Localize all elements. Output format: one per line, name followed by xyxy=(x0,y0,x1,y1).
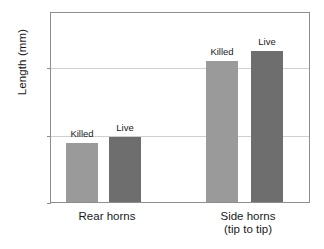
y-tick-mark-10 xyxy=(47,136,51,137)
y-tick-mark-20 xyxy=(47,68,51,69)
bar-label-rear-horns-live: Live xyxy=(105,123,145,133)
y-tick-mark-0 xyxy=(47,203,51,204)
x-category-label-side-horns: Side horns (tip to tip) xyxy=(193,210,303,236)
x-category-label-side-horns-line1: Side horns xyxy=(221,210,276,222)
x-category-label-rear-horns-line1: Rear horns xyxy=(79,210,136,222)
bar-label-side-horns-live: Live xyxy=(247,37,287,47)
x-category-label-rear-horns: Rear horns xyxy=(62,210,152,223)
bar-chart: Length (mm) 20 10 0 Killed Live Killed L… xyxy=(0,0,324,249)
y-axis-title: Length (mm) xyxy=(16,2,28,122)
bar-side-horns-live xyxy=(251,51,283,202)
bar-side-horns-killed xyxy=(206,61,238,202)
plot-area: Killed Live Killed Live xyxy=(50,12,310,203)
x-category-label-side-horns-line2: (tip to tip) xyxy=(193,223,303,236)
bar-label-side-horns-killed: Killed xyxy=(202,47,242,57)
bar-label-rear-horns-killed: Killed xyxy=(62,129,102,139)
bar-rear-horns-killed xyxy=(66,143,98,202)
bar-rear-horns-live xyxy=(109,137,141,202)
